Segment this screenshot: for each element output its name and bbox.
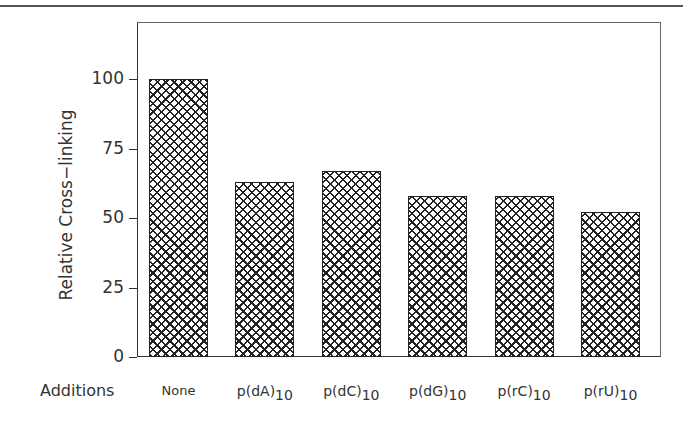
y-tick-label: 25 bbox=[84, 279, 124, 296]
bar-p-dg-10 bbox=[408, 196, 467, 357]
x-tick-label: p(dA)10 bbox=[215, 383, 315, 403]
top-rule bbox=[0, 5, 683, 7]
bar-p-rc-10 bbox=[495, 196, 554, 357]
y-tick-label: 100 bbox=[84, 70, 124, 87]
y-tick bbox=[129, 79, 137, 80]
y-tick-label: 0 bbox=[84, 348, 124, 365]
y-tick bbox=[129, 288, 137, 289]
x-tick-label: p(rC)10 bbox=[474, 383, 574, 403]
y-axis-label: Relative Cross−linking bbox=[56, 95, 76, 315]
y-tick bbox=[129, 357, 137, 358]
x-tick-label: p(dC)10 bbox=[301, 383, 401, 403]
bar-p-ru-10 bbox=[581, 212, 640, 357]
y-tick-label: 75 bbox=[84, 140, 124, 157]
x-tick-label: None bbox=[129, 383, 229, 398]
x-tick-label: p(rU)10 bbox=[561, 383, 661, 403]
x-axis-label: Additions bbox=[40, 381, 114, 400]
y-tick-label: 50 bbox=[84, 209, 124, 226]
y-tick bbox=[129, 218, 137, 219]
y-tick bbox=[129, 149, 137, 150]
bar-none bbox=[149, 79, 208, 357]
x-tick-label: p(dG)10 bbox=[388, 383, 488, 403]
bar-p-da-10 bbox=[235, 182, 294, 357]
bar-p-dc-10 bbox=[322, 171, 381, 357]
